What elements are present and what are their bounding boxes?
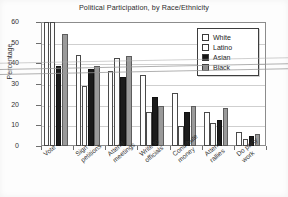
x-axis-tick-mark [202, 146, 203, 150]
legend-swatch-black-icon [202, 64, 209, 71]
x-axis-tick-mark [105, 146, 106, 150]
x-axis-tick-mark [170, 146, 171, 150]
chart-legend: White Latino Asian Black [197, 28, 259, 76]
legend-swatch-latino-icon [202, 44, 209, 51]
y-axis-tick-label: 50 [0, 39, 19, 46]
x-axis-tick-mark [137, 146, 138, 150]
y-axis-tick-label: 40 [0, 59, 19, 66]
legend-label-asian: Asian [213, 54, 231, 61]
y-axis-tick-label: 60 [0, 18, 19, 25]
gridline [42, 106, 265, 107]
legend-item-black: Black [202, 62, 254, 72]
legend-item-white: White [202, 32, 254, 42]
legend-swatch-white-icon [202, 34, 209, 41]
x-axis-tick-mark [234, 146, 235, 150]
chart-title: Political Participation, by Race/Ethnici… [0, 3, 288, 12]
chart-figure: Political Participation, by Race/Ethnici… [0, 0, 288, 197]
y-axis-tick-label: 20 [0, 101, 19, 108]
y-axis-tick-label: 0 [0, 142, 19, 149]
legend-item-asian: Asian [202, 52, 254, 62]
x-axis-tick-mark [41, 146, 42, 150]
gridline [42, 85, 265, 86]
y-axis-tick-label: 10 [0, 121, 19, 128]
legend-swatch-asian-icon [202, 54, 209, 61]
gridline [42, 126, 265, 127]
x-axis-tick-mark [266, 146, 267, 150]
legend-item-latino: Latino [202, 42, 254, 52]
y-axis-tick-label: 30 [0, 80, 19, 87]
x-axis-tick-mark [73, 146, 74, 150]
legend-label-latino: Latino [213, 44, 232, 51]
legend-label-black: Black [213, 64, 230, 71]
legend-label-white: White [213, 34, 231, 41]
